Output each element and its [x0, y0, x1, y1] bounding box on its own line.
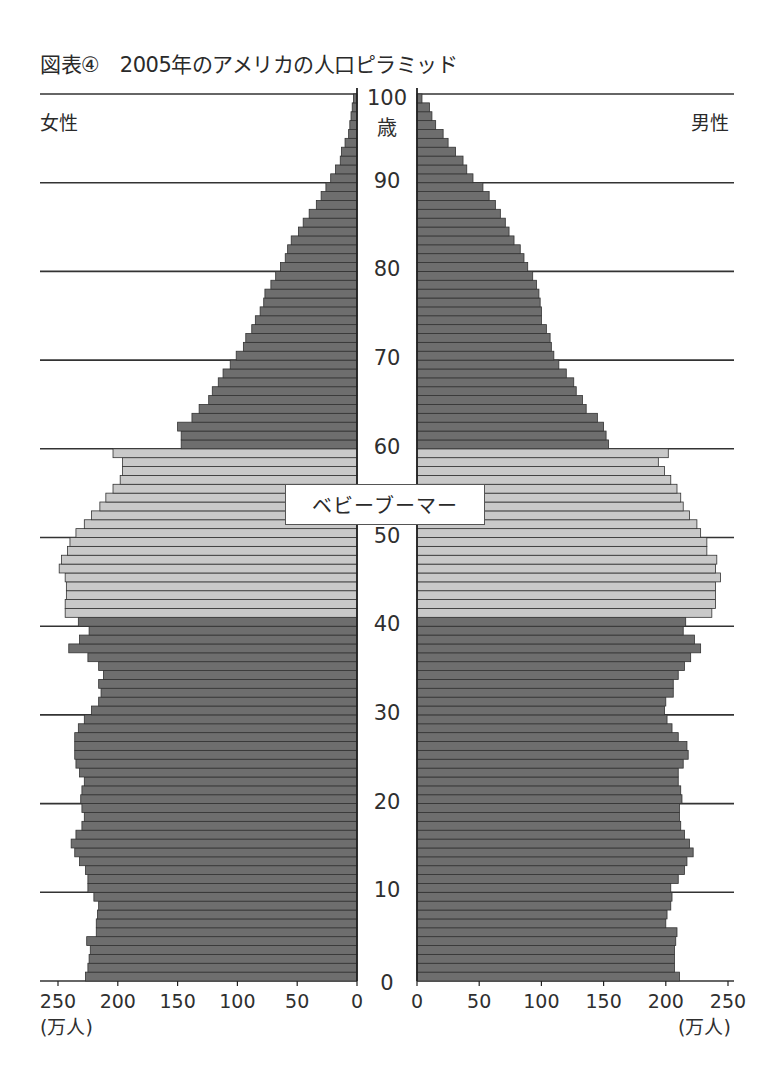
- male-bar: [417, 679, 673, 688]
- male-bar: [417, 254, 524, 263]
- female-bar: [65, 608, 357, 617]
- female-bar: [276, 271, 357, 280]
- female-bar: [264, 298, 357, 307]
- male-bar: [417, 316, 541, 325]
- age-tick-label: 30: [357, 701, 417, 725]
- male-bar: [417, 875, 678, 884]
- male-bar: [417, 209, 500, 218]
- female-bar: [252, 325, 357, 334]
- male-x-tick-label: 250: [710, 990, 746, 1012]
- female-x-tick-label: 100: [219, 990, 255, 1012]
- female-bar: [230, 360, 357, 369]
- female-bar: [82, 804, 357, 813]
- female-bar: [288, 245, 357, 254]
- female-bar: [99, 662, 357, 671]
- male-bar: [417, 467, 665, 476]
- female-bar: [97, 910, 357, 919]
- female-bar: [99, 697, 357, 706]
- male-bar: [417, 653, 691, 662]
- male-bar: [417, 298, 540, 307]
- female-bar: [89, 626, 357, 635]
- female-bar: [89, 954, 357, 963]
- male-bar: [417, 768, 678, 777]
- female-bar: [316, 200, 357, 209]
- female-bar: [78, 617, 357, 626]
- male-bar: [417, 289, 539, 298]
- male-bar: [417, 529, 701, 538]
- male-bar: [417, 369, 566, 378]
- female-bar: [91, 706, 357, 715]
- male-bar: [417, 812, 679, 821]
- baby-boomer-label: ベビーブーマー: [285, 484, 485, 525]
- female-bar: [70, 538, 357, 547]
- female-bar: [218, 378, 357, 387]
- female-bar: [280, 263, 357, 272]
- male-bar: [417, 431, 606, 440]
- female-bar: [345, 138, 357, 147]
- male-bar: [417, 697, 666, 706]
- male-bar: [417, 706, 665, 715]
- female-bar: [65, 573, 357, 582]
- male-bar: [417, 857, 687, 866]
- female-bar: [113, 449, 357, 458]
- male-bar: [417, 183, 483, 192]
- female-bar: [209, 396, 357, 405]
- female-bar: [96, 928, 357, 937]
- male-bar: [417, 821, 681, 830]
- age-tick-label: 20: [357, 790, 417, 814]
- female-bar: [223, 369, 357, 378]
- male-bar: [417, 830, 684, 839]
- male-bar: [417, 608, 712, 617]
- male-bar: [417, 422, 604, 431]
- female-bar: [81, 795, 357, 804]
- female-bar: [291, 236, 357, 245]
- male-bar: [417, 271, 533, 280]
- male-bar: [417, 138, 448, 147]
- male-bar: [417, 129, 443, 138]
- male-bar: [417, 582, 716, 591]
- female-bar: [86, 866, 357, 875]
- male-bar: [417, 413, 597, 422]
- male-bar: [417, 475, 671, 484]
- age-tick-label: 80: [357, 257, 417, 281]
- female-bar: [62, 555, 357, 564]
- male-bar: [417, 742, 687, 751]
- male-bar: [417, 236, 514, 245]
- female-bar: [66, 591, 357, 600]
- female-bar: [120, 475, 357, 484]
- male-bar: [417, 147, 456, 156]
- male-bar: [417, 103, 429, 112]
- female-bar: [75, 742, 357, 751]
- female-bar: [84, 715, 357, 724]
- female-bar: [99, 679, 357, 688]
- female-x-tick-label: 0: [351, 990, 363, 1012]
- male-bar: [417, 449, 668, 458]
- female-bar: [341, 147, 357, 156]
- female-x-tick-label: 250: [40, 990, 76, 1012]
- female-bar: [87, 937, 357, 946]
- female-bar: [69, 644, 357, 653]
- female-bar: [80, 768, 357, 777]
- male-bar: [417, 121, 436, 130]
- male-bar: [417, 644, 701, 653]
- female-bar: [321, 192, 357, 201]
- male-bar: [417, 263, 528, 272]
- male-bar: [417, 564, 716, 573]
- male-bar: [417, 928, 677, 937]
- male-bar: [417, 325, 546, 334]
- female-bar: [285, 254, 357, 263]
- female-bar: [99, 901, 357, 910]
- male-bar: [417, 573, 721, 582]
- male-x-tick-label: 100: [523, 990, 559, 1012]
- male-bar: [417, 600, 716, 609]
- female-bar: [271, 280, 357, 289]
- male-unit-label: (万人): [678, 1012, 731, 1039]
- female-bar: [349, 129, 357, 138]
- female-bar: [78, 724, 357, 733]
- male-bar: [417, 307, 541, 316]
- male-bar: [417, 901, 671, 910]
- female-bar: [82, 786, 357, 795]
- female-unit-label: (万人): [40, 1012, 93, 1039]
- female-x-tick-label: 50: [285, 990, 309, 1012]
- female-bar: [103, 671, 357, 680]
